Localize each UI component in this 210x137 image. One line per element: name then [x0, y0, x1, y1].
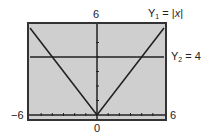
x-min-label: −6 [11, 110, 24, 121]
origin-label: 0 [94, 123, 100, 134]
y1-equals: = | [159, 7, 174, 19]
y2-equals: = 4 [182, 50, 201, 62]
y-max-label: 6 [93, 9, 99, 20]
legend-y2: Y2 = 4 [171, 51, 201, 65]
y1-bar: | [180, 7, 183, 19]
x-max-label: 6 [170, 110, 176, 121]
legend-y1: Y1 = |x| [148, 8, 183, 22]
